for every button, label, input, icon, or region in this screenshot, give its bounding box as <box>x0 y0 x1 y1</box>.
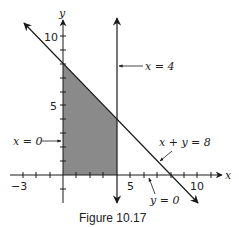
label-x-equals-0: x = 0 <box>13 135 42 148</box>
x-tick-label-neg3: −3 <box>11 180 27 193</box>
figure-10-17: −3 5 10 5 10 y x x = 4 x = 0 x + y = 8 y… <box>0 0 239 227</box>
label-x-plus-y-equals-8: x + y = 8 <box>159 136 211 149</box>
y0-pointer <box>149 178 155 194</box>
label-x-equals-4: x = 4 <box>145 60 174 73</box>
y-tick-label-10: 10 <box>44 31 58 44</box>
label-y-equals-0: y = 0 <box>149 194 179 207</box>
x-axis-label: x <box>225 169 232 182</box>
y-axis-label: y <box>58 7 66 20</box>
y-tick-label-5: 5 <box>50 100 57 113</box>
x-tick-label-10: 10 <box>190 180 204 193</box>
feasible-region <box>63 64 117 175</box>
xy8-pointer <box>160 151 172 161</box>
figure-caption: Figure 10.17 <box>79 211 147 225</box>
x-tick-label-5: 5 <box>127 180 134 193</box>
